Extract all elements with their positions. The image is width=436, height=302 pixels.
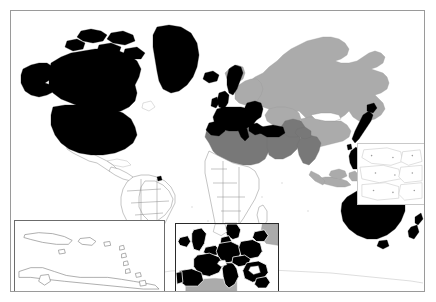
pacific-dot	[414, 190, 416, 192]
region-turkey	[260, 125, 285, 137]
inset-region-cuba	[24, 233, 72, 245]
inset-region-baltics	[253, 230, 269, 242]
inset-region-pacific-block-d	[399, 165, 422, 182]
caribbean-inset	[14, 220, 165, 292]
coastline-newfoundland	[142, 101, 155, 111]
inset-region-greece	[254, 276, 270, 288]
inset-region-portugal	[176, 272, 183, 285]
region-iceland	[203, 71, 219, 83]
pacific-dot	[412, 172, 414, 174]
inset-region-venezuela-lake	[39, 274, 51, 285]
pacific-dot	[412, 155, 414, 157]
pacific-dot	[373, 190, 375, 192]
europe-inset-svg	[176, 224, 278, 291]
region-tasmania	[377, 240, 389, 249]
inset-region-lesser-antilles	[120, 245, 142, 277]
world-map-figure	[0, 0, 436, 302]
inset-region-puerto-rico	[104, 241, 111, 246]
inset-region-pacific-block-f	[399, 183, 422, 200]
region-new-zealand	[408, 213, 423, 239]
map-frame	[10, 10, 425, 292]
region-russia	[241, 37, 389, 121]
pacific-dot	[394, 174, 396, 176]
pacific-dot	[371, 155, 373, 157]
inset-region-jamaica	[58, 249, 65, 254]
pacific-dot	[392, 192, 394, 194]
inset-region-trinidad	[139, 280, 146, 286]
pacific-dot	[375, 172, 377, 174]
caribbean-inset-svg	[15, 221, 164, 291]
region-central-america	[109, 167, 133, 181]
inset-region-hispaniola	[78, 238, 96, 246]
region-united-states	[51, 105, 137, 155]
inset-region-pacific-block-a	[362, 148, 403, 165]
inset-region-pacific-block-b	[401, 150, 422, 165]
europe-inset	[175, 223, 279, 292]
region-french-guiana	[157, 176, 162, 181]
region-united-kingdom	[217, 91, 229, 109]
region-taiwan	[347, 144, 352, 150]
inset-region-pacific-block-c	[360, 165, 401, 182]
pacific-inset-svg	[358, 144, 424, 204]
region-greenland	[153, 25, 199, 93]
inset-region-pacific-block-e	[362, 183, 399, 200]
pacific-inset	[357, 143, 425, 205]
pacific-dot	[392, 157, 394, 159]
region-india	[297, 135, 321, 165]
